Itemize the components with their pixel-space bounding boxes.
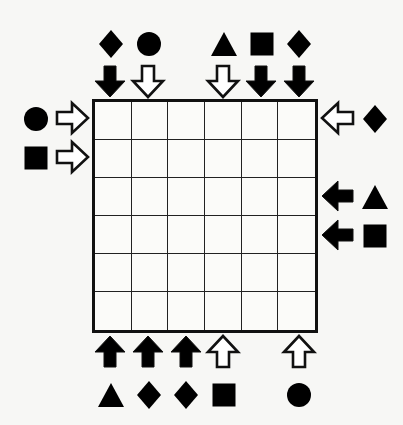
- grid-cell[interactable]: [132, 102, 169, 140]
- right-clue-arrow-row-1: [319, 101, 357, 137]
- grid-cell[interactable]: [205, 178, 242, 216]
- grid-cell[interactable]: [278, 102, 315, 140]
- grid-cell[interactable]: [168, 216, 205, 254]
- grid-cell[interactable]: [168, 102, 205, 140]
- grid-cell[interactable]: [168, 178, 205, 216]
- grid-cell[interactable]: [242, 102, 279, 140]
- grid-cell[interactable]: [278, 254, 315, 292]
- grid-cell[interactable]: [95, 216, 132, 254]
- right-clue-shape-row-1: [356, 101, 394, 137]
- grid-cell[interactable]: [242, 292, 279, 330]
- grid-cell[interactable]: [95, 102, 132, 140]
- bottom-clue-shape-col-1: [92, 377, 130, 413]
- grid-cell[interactable]: [95, 254, 132, 292]
- bottom-clue-arrow-col-1: [92, 334, 130, 370]
- left-clue-arrow-row-1: [53, 101, 91, 137]
- bottom-clue-shape-col-3: [167, 377, 205, 413]
- grid-cell[interactable]: [168, 140, 205, 178]
- grid-cell[interactable]: [242, 178, 279, 216]
- left-clue-shape-row-1: [17, 101, 55, 137]
- grid-cell[interactable]: [205, 140, 242, 178]
- top-clue-arrow-col-5: [243, 63, 281, 99]
- grid-cell[interactable]: [242, 254, 279, 292]
- right-clue-arrow-row-3: [319, 179, 357, 215]
- grid-cell[interactable]: [278, 216, 315, 254]
- bottom-clue-arrow-col-2: [130, 334, 168, 370]
- grid-cell[interactable]: [168, 254, 205, 292]
- bottom-clue-shape-col-4: [205, 377, 243, 413]
- right-clue-shape-row-3: [356, 179, 394, 215]
- top-clue-shape-col-2: [130, 26, 168, 62]
- grid-cell[interactable]: [132, 216, 169, 254]
- grid-cell[interactable]: [132, 140, 169, 178]
- top-clue-arrow-col-2: [130, 63, 168, 99]
- top-clue-arrow-col-6: [280, 63, 318, 99]
- grid-cell[interactable]: [242, 140, 279, 178]
- right-clue-arrow-row-4: [319, 218, 357, 254]
- bottom-clue-arrow-col-3: [167, 334, 205, 370]
- top-clue-shape-col-1: [92, 26, 130, 62]
- grid-cell[interactable]: [168, 292, 205, 330]
- grid-cell[interactable]: [132, 292, 169, 330]
- left-clue-shape-row-2: [17, 140, 55, 176]
- grid-cell[interactable]: [278, 292, 315, 330]
- top-clue-arrow-col-1: [92, 63, 130, 99]
- grid-cell[interactable]: [132, 254, 169, 292]
- top-clue-shape-col-5: [243, 26, 281, 62]
- grid-cell[interactable]: [242, 216, 279, 254]
- right-clue-shape-row-4: [356, 218, 394, 254]
- left-clue-arrow-row-2: [53, 140, 91, 176]
- top-clue-shape-col-4: [205, 26, 243, 62]
- grid-cell[interactable]: [205, 216, 242, 254]
- grid-cell[interactable]: [205, 254, 242, 292]
- bottom-clue-arrow-col-6: [280, 334, 318, 370]
- bottom-clue-shape-col-6: [280, 377, 318, 413]
- grid-cell[interactable]: [95, 292, 132, 330]
- bottom-clue-shape-col-2: [130, 377, 168, 413]
- grid-cell[interactable]: [278, 178, 315, 216]
- grid-cell[interactable]: [205, 102, 242, 140]
- grid-cell[interactable]: [95, 140, 132, 178]
- grid-cell[interactable]: [278, 140, 315, 178]
- grid-cell[interactable]: [132, 178, 169, 216]
- grid-cell[interactable]: [95, 178, 132, 216]
- bottom-clue-arrow-col-4: [205, 334, 243, 370]
- top-clue-arrow-col-4: [205, 63, 243, 99]
- top-clue-shape-col-6: [280, 26, 318, 62]
- grid-cell[interactable]: [205, 292, 242, 330]
- puzzle-grid: [92, 99, 318, 333]
- puzzle-canvas: [0, 0, 403, 425]
